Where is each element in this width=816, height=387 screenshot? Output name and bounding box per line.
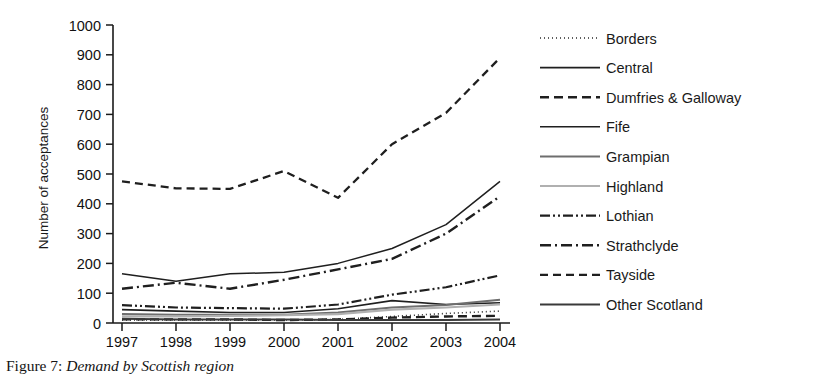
x-axis: 19971998199920002001200220032004	[106, 323, 516, 350]
y-axis: 01002003004005006007008009001000	[69, 18, 113, 332]
x-tick-label: 1999	[214, 334, 246, 350]
figure-caption: Figure 7: Demand by Scottish region	[6, 355, 566, 383]
legend-label-highland[interactable]: Highland	[606, 179, 663, 195]
legend-label-tayside[interactable]: Tayside	[606, 267, 655, 283]
x-tick-label: 1998	[160, 334, 192, 350]
chart-legend: BordersCentralDumfries & GallowayFifeGra…	[540, 31, 742, 313]
legend-label-borders[interactable]: Borders	[606, 31, 657, 47]
chart-plot-area: Number of acceptances 010020030040050060…	[0, 0, 816, 350]
legend-label-strathclyde[interactable]: Strathclyde	[606, 238, 679, 254]
x-tick-label: 2004	[484, 334, 516, 350]
legend-label-grampian[interactable]: Grampian	[606, 149, 670, 165]
y-tick-label: 900	[77, 47, 101, 63]
series-line-other-scotland	[122, 319, 500, 320]
x-tick-label: 2002	[376, 334, 408, 350]
caption-prefix: Figure 7:	[6, 357, 62, 374]
y-tick-label: 400	[77, 196, 101, 212]
legend-label-fife[interactable]: Fife	[606, 119, 630, 135]
line-chart: Number of acceptances 010020030040050060…	[0, 0, 816, 350]
y-axis-title: Number of acceptances	[36, 106, 51, 249]
data-series-group	[122, 58, 500, 320]
series-line-fife	[122, 181, 500, 281]
y-tick-label: 800	[77, 77, 101, 93]
y-tick-label: 200	[77, 256, 101, 272]
series-line-tayside	[122, 58, 500, 198]
x-tick-label: 2003	[430, 334, 462, 350]
y-tick-label: 600	[77, 137, 101, 153]
legend-label-other-scotland[interactable]: Other Scotland	[606, 297, 703, 313]
y-tick-label: 700	[77, 107, 101, 123]
x-tick-label: 2000	[268, 334, 300, 350]
y-tick-label: 0	[93, 316, 101, 332]
series-line-strathclyde	[122, 196, 500, 288]
y-tick-label: 1000	[69, 18, 101, 34]
y-tick-label: 500	[77, 167, 101, 183]
y-tick-label: 100	[77, 286, 101, 302]
legend-label-dumfries-galloway[interactable]: Dumfries & Galloway	[606, 90, 742, 106]
figure-container: Number of acceptances 010020030040050060…	[0, 0, 816, 387]
x-tick-label: 2001	[322, 334, 354, 350]
legend-label-lothian[interactable]: Lothian	[606, 208, 654, 224]
y-tick-label: 300	[77, 226, 101, 242]
legend-label-central[interactable]: Central	[606, 60, 653, 76]
x-tick-label: 1997	[106, 334, 138, 350]
caption-title: Demand by Scottish region	[66, 357, 234, 374]
